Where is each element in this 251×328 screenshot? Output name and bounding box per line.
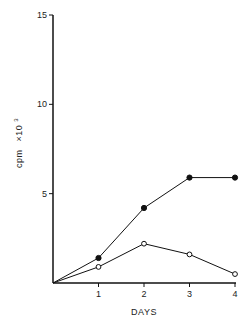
x-tick-label: 1 — [96, 289, 101, 299]
x-ticks: 1234 — [96, 283, 238, 299]
y-axis-title: cpm ×10 3 — [13, 118, 24, 168]
open-circle-marker — [96, 265, 101, 270]
filled-circle-marker — [187, 175, 192, 180]
y-tick-label: 5 — [42, 189, 47, 199]
open-circle-marker — [233, 272, 238, 277]
open-circle-marker — [142, 241, 147, 246]
x-tick-label: 2 — [141, 289, 146, 299]
y-axis-title-main: cpm — [14, 149, 24, 168]
y-tick-label: 15 — [37, 10, 47, 20]
y-axis-title-exp: 3 — [13, 118, 19, 122]
series-markers — [96, 175, 238, 276]
filled-circle-marker — [232, 175, 237, 180]
y-ticks: 51015 — [37, 10, 53, 199]
y-axis-title-mult: ×10 — [14, 125, 24, 142]
series-line — [53, 178, 235, 283]
line-chart: 51015 1234 DAYS cpm ×10 3 — [0, 0, 251, 328]
y-tick-label: 10 — [37, 99, 47, 109]
filled-circle-marker — [141, 205, 146, 210]
x-tick-label: 3 — [187, 289, 192, 299]
open-circle-marker — [187, 252, 192, 257]
filled-circle-marker — [96, 255, 101, 260]
x-axis-title: DAYS — [131, 307, 157, 317]
svg-text:cpm ×10 3: cpm ×10 3 — [13, 118, 24, 168]
series-lines — [53, 178, 235, 283]
series-line — [53, 244, 235, 283]
x-tick-label: 4 — [232, 289, 237, 299]
